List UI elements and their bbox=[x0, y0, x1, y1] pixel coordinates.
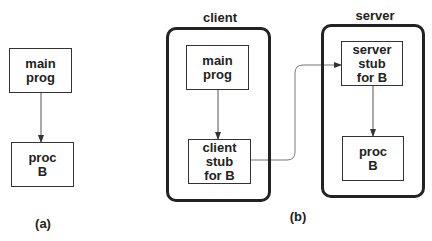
server-stub-box: server stub for B bbox=[341, 41, 403, 86]
server-proc-b-box: proc B bbox=[342, 136, 404, 181]
a-proc-b-box: proc B bbox=[11, 142, 74, 187]
caption-b: (b) bbox=[285, 209, 311, 224]
client-main-prog-box: main prog bbox=[186, 45, 249, 90]
server-title: server bbox=[335, 8, 415, 23]
a-main-prog-box: main prog bbox=[9, 48, 72, 93]
client-stub-box: client stub for B bbox=[188, 139, 251, 184]
caption-a: (a) bbox=[30, 216, 56, 231]
client-title: client bbox=[180, 10, 260, 25]
